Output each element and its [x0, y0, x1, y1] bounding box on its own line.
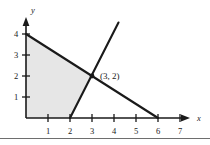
y-axis-label: y	[30, 5, 35, 15]
y-axis-arrow-icon	[23, 17, 30, 26]
intersection-point-label: (3, 2)	[100, 71, 120, 81]
figure-root: 1 2 3 4 5 6 7 1 2 3 4 y x (3, 2)	[0, 0, 210, 145]
y-tick-label-4: 4	[14, 29, 19, 39]
x-tick-label-1: 1	[46, 126, 50, 136]
y-tick-label-2: 2	[14, 71, 18, 81]
x-axis-arrow-icon	[181, 115, 190, 122]
intersection-point-marker	[90, 74, 95, 79]
y-tick-label-3: 3	[14, 50, 18, 60]
shaded-feasible-region	[26, 34, 92, 118]
x-tick-label-3: 3	[90, 126, 94, 136]
x-tick-label-2: 2	[68, 126, 72, 136]
x-tick-label-4: 4	[112, 126, 117, 136]
coordinate-plane-chart: 1 2 3 4 5 6 7 1 2 3 4 y x (3, 2)	[0, 0, 210, 145]
x-axis-label: x	[196, 113, 201, 123]
x-tick-label-6: 6	[156, 126, 160, 136]
x-tick-label-5: 5	[134, 126, 138, 136]
y-tick-label-1: 1	[14, 92, 18, 102]
x-tick-label-7: 7	[178, 126, 182, 136]
